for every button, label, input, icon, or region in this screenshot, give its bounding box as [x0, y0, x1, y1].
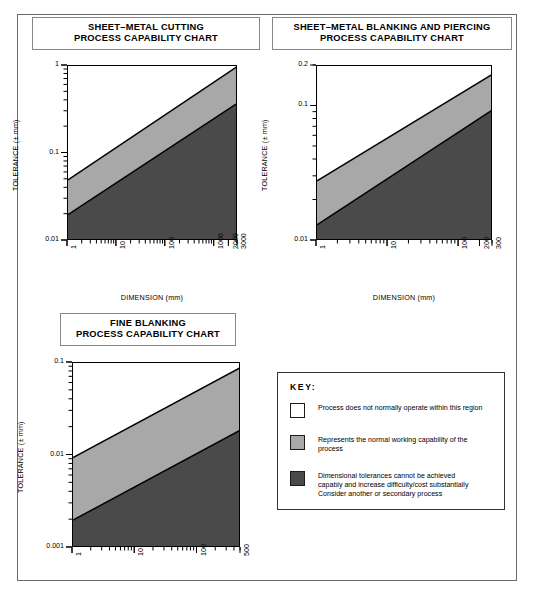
- y-tick-label: 0.2: [274, 60, 308, 68]
- x-tick-label: 1: [319, 245, 327, 249]
- chart-title-line2: PROCESS CAPABILITY CHART: [65, 329, 231, 341]
- key-swatch-light-grey: [290, 435, 305, 450]
- x-tick-label: 100: [168, 237, 176, 249]
- x-tick-label: 100: [461, 237, 469, 249]
- y-tick-label: 0.1: [25, 148, 59, 156]
- chart-title-line1: FINE BLANKING: [65, 318, 231, 330]
- y-tick-label: 0.01: [25, 235, 59, 243]
- x-tick-label: 2000: [232, 233, 240, 249]
- key-title: KEY:: [290, 382, 316, 392]
- y-tick-label: 1: [25, 60, 59, 68]
- chart-title-fine-blanking: FINE BLANKING PROCESS CAPABILITY CHART: [60, 313, 236, 353]
- x-axis-label: DIMENSION (mm): [47, 293, 257, 302]
- x-tick-label: 10: [137, 548, 145, 556]
- y-axis-label: TOLERANCE (± mm): [16, 421, 25, 493]
- x-tick-label: 200: [483, 237, 491, 249]
- key-entry-white: Process does not normally operate within…: [290, 403, 495, 418]
- key-swatch-white: [290, 403, 305, 418]
- y-tick-label: 0.001: [30, 542, 64, 550]
- x-tick-label: 10: [119, 241, 127, 249]
- x-tick-label: 300: [495, 237, 503, 249]
- x-tick-label: 1: [75, 552, 83, 556]
- y-axis-label: TOLERANCE (± mm): [260, 119, 269, 191]
- chart-title-sheet-metal-blanking-and-piercing: SHEET–METAL BLANKING AND PIERCING PROCES…: [272, 17, 512, 57]
- y-tick-label: 0.1: [274, 100, 308, 108]
- key-swatch-dark-grey: [290, 471, 305, 486]
- y-tick-label: 0.01: [30, 450, 64, 458]
- chart-title-sheet-metal-cutting: SHEET–METAL CUTTING PROCESS CAPABILITY C…: [32, 17, 260, 57]
- key-entry-light-grey: Represents the normal working capability…: [290, 435, 495, 454]
- chart-fine-blanking: 0.0010.010.1110100500TOLERANCE (± mm)DIM…: [20, 352, 265, 582]
- y-tick-label: 0.1: [30, 357, 64, 365]
- key-text-white: Process does not normally operate within…: [318, 403, 482, 413]
- x-axis-label: DIMENSION (mm): [296, 293, 512, 302]
- chart-title-line1: SHEET–METAL CUTTING: [37, 22, 255, 34]
- x-tick-label: 500: [243, 544, 251, 556]
- chart-sheet-metal-cutting: 0.010.11110100100020003000TOLERANCE (± m…: [20, 55, 265, 270]
- chart-title-line2: PROCESS CAPABILITY CHART: [277, 33, 507, 45]
- x-tick-label: 1000: [217, 233, 225, 249]
- key-legend-box: KEY: Process does not normally operate w…: [277, 372, 505, 510]
- x-tick-label: 1: [70, 245, 78, 249]
- chart-title-line2: PROCESS CAPABILITY CHART: [37, 33, 255, 45]
- chart-sheet-metal-blanking-and-piercing: 0.010.10.2110100200300TOLERANCE (± mm)DI…: [266, 55, 516, 270]
- y-tick-label: 0.01: [274, 235, 308, 243]
- x-tick-label: 10: [390, 241, 398, 249]
- key-text-dark-grey: Dimensional tolerances cannot be achieve…: [318, 471, 469, 499]
- y-axis-label: TOLERANCE (± mm): [11, 119, 20, 191]
- chart-title-line1: SHEET–METAL BLANKING AND PIERCING: [277, 22, 507, 34]
- key-entry-dark-grey: Dimensional tolerances cannot be achieve…: [290, 471, 500, 499]
- page-root: SHEET–METAL CUTTING PROCESS CAPABILITY C…: [0, 0, 535, 599]
- x-tick-label: 100: [200, 544, 208, 556]
- x-tick-label: 3000: [240, 233, 248, 249]
- key-text-light-grey: Represents the normal working capability…: [318, 435, 467, 454]
